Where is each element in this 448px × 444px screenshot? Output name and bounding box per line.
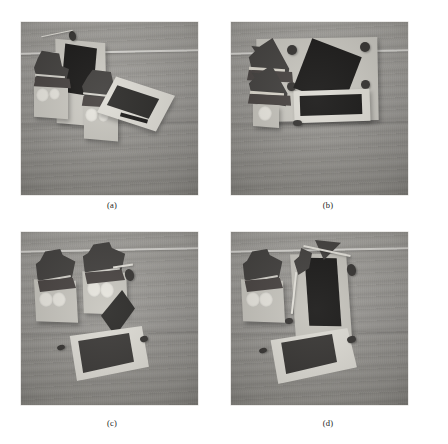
framed-rect-ink	[300, 94, 363, 116]
photo-c	[21, 232, 198, 405]
photo-b	[231, 22, 408, 195]
triangle-base-circle-front	[258, 106, 272, 121]
figure-panel-grid: (a)	[0, 0, 448, 444]
panel-caption-c: (c)	[0, 418, 224, 428]
photo-d	[231, 232, 408, 405]
figure-panel-a: (a)	[0, 0, 224, 222]
figure-panel-c: (c)	[0, 222, 224, 444]
right-block-circle-1	[85, 108, 98, 122]
board-dot-top-left	[287, 45, 297, 55]
panel-caption-a: (a)	[0, 200, 224, 210]
upright-panel-ink-patch	[305, 258, 342, 326]
left-block-circle-2	[49, 88, 60, 100]
board-dot-top-right	[360, 42, 370, 52]
panel-caption-d: (d)	[216, 418, 440, 428]
left-block-circle-1	[36, 88, 49, 102]
figure-panel-d: (d)	[224, 222, 448, 444]
panel-caption-b: (b)	[216, 200, 440, 210]
figure-panel-b: (b)	[224, 0, 448, 222]
board-dot-mid-right	[361, 80, 370, 89]
photo-a	[21, 22, 198, 195]
framed-rect-foot	[293, 120, 302, 126]
